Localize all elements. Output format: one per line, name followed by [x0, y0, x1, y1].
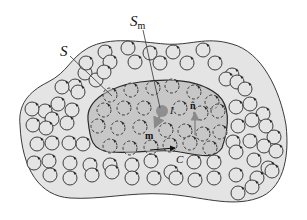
sm-small-area — [156, 105, 168, 117]
label-sm-subscript: m — [138, 20, 146, 31]
label-sm: Sm — [130, 14, 145, 31]
label-s: S — [60, 44, 68, 59]
label-moment-m: m — [145, 131, 153, 141]
label-sm-main: S — [130, 13, 138, 29]
label-current-i: I — [170, 106, 173, 116]
magnetization-diagram — [0, 0, 307, 220]
label-contour-c: C — [176, 154, 183, 165]
label-normal-n: n̂ — [190, 101, 196, 111]
